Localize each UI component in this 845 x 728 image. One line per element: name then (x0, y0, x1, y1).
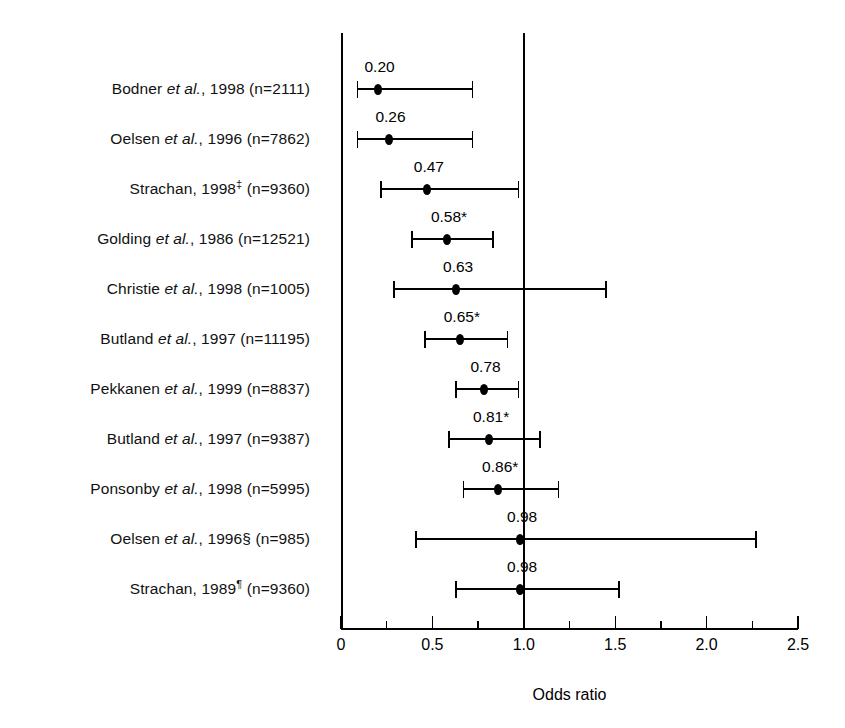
confidence-interval-cap-upper (558, 481, 560, 498)
odds-ratio-point-marker (494, 484, 502, 495)
study-label: Strachan, 1998‡ (n=9360) (130, 181, 310, 197)
x-tick-major (432, 616, 433, 629)
study-etal: et al. (164, 430, 198, 447)
odds-ratio-point-marker (443, 234, 451, 245)
odds-ratio-point-marker (516, 584, 524, 595)
y-axis-line (341, 33, 343, 628)
study-author: Butland (100, 330, 158, 347)
confidence-interval-line (463, 488, 558, 490)
odds-ratio-point-marker (456, 334, 464, 345)
x-tick-label: 0.5 (421, 637, 443, 653)
x-tick-minor (752, 621, 753, 629)
odds-ratio-point-marker (423, 184, 431, 195)
confidence-interval-line (381, 188, 518, 190)
study-author: Butland (107, 430, 165, 447)
confidence-interval-line (394, 288, 606, 290)
odds-ratio-value-label: 0.20 (364, 59, 394, 75)
confidence-interval-cap-lower (357, 131, 359, 148)
study-year-n: , 1998 (n=5995) (199, 480, 310, 497)
study-n: (n=9360) (242, 580, 310, 597)
study-author: Golding (97, 230, 156, 247)
study-etal: et al. (164, 130, 198, 147)
confidence-interval-cap-lower (415, 531, 417, 548)
x-tick-major (523, 616, 524, 629)
confidence-interval-cap-lower (424, 331, 426, 348)
study-year-n: , 1986 (n=12521) (190, 230, 310, 247)
plot-area: 00.51.01.52.02.5 0.200.260.470.58*0.630.… (341, 33, 798, 628)
x-tick-label: 0 (337, 637, 346, 653)
study-author-year: Strachan, 1989 (130, 580, 237, 597)
odds-ratio-point-marker (485, 434, 493, 445)
x-tick-label: 2.5 (787, 637, 809, 653)
confidence-interval-cap-upper (472, 131, 474, 148)
study-author-year: Strachan, 1998 (130, 180, 237, 197)
confidence-interval-line (449, 438, 540, 440)
odds-ratio-value-label: 0.98 (507, 509, 537, 525)
study-label: Oelsen et al., 1996 (n=7862) (110, 131, 310, 147)
odds-ratio-value-label: 0.47 (414, 159, 444, 175)
x-tick-label: 1.5 (604, 637, 626, 653)
confidence-interval-cap-lower (463, 481, 465, 498)
confidence-interval-cap-upper (539, 431, 541, 448)
study-author: Bodner (112, 80, 167, 97)
odds-ratio-value-label: 0.58* (431, 209, 467, 225)
study-etal: et al. (156, 230, 190, 247)
x-tick-label: 1.0 (513, 637, 535, 653)
study-etal: et al. (158, 330, 192, 347)
odds-ratio-value-label: 0.98 (507, 559, 537, 575)
study-label: Christie et al., 1998 (n=1005) (107, 281, 310, 297)
study-label: Strachan, 1989¶ (n=9360) (130, 581, 310, 597)
odds-ratio-value-label: 0.65* (444, 309, 480, 325)
study-year-n: , 1997 (n=11195) (192, 330, 310, 347)
study-etal: et al. (164, 380, 198, 397)
confidence-interval-line (425, 338, 507, 340)
confidence-interval-cap-upper (755, 531, 757, 548)
odds-ratio-value-label: 0.86* (482, 459, 518, 475)
x-tick-minor (386, 621, 387, 629)
confidence-interval-cap-upper (492, 231, 494, 248)
confidence-interval-cap-lower (448, 431, 450, 448)
confidence-interval-cap-upper (472, 81, 474, 98)
confidence-interval-line (456, 588, 619, 590)
study-label: Butland et al., 1997 (n=9387) (107, 431, 310, 447)
study-label: Pekkanen et al., 1999 (n=8837) (90, 381, 310, 397)
odds-ratio-value-label: 0.81* (473, 409, 509, 425)
x-tick-minor (660, 621, 661, 629)
study-author: Christie (107, 280, 165, 297)
study-label: Oelsen et al., 1996§ (n=985) (110, 531, 310, 547)
odds-ratio-point-marker (374, 84, 382, 95)
study-label: Butland et al., 1997 (n=11195) (100, 331, 310, 347)
study-author: Oelsen (110, 130, 164, 147)
confidence-interval-cap-upper (518, 181, 520, 198)
odds-ratio-value-label: 0.63 (443, 259, 473, 275)
odds-ratio-point-marker (452, 284, 460, 295)
confidence-interval-cap-upper (605, 281, 607, 298)
x-tick-major (615, 616, 616, 629)
confidence-interval-line (412, 238, 492, 240)
x-tick-minor (569, 621, 570, 629)
x-tick-major (797, 616, 798, 629)
study-etal: et al. (167, 80, 201, 97)
confidence-interval-cap-lower (393, 281, 395, 298)
study-author: Pekkanen (90, 380, 164, 397)
study-author: Ponsonby (90, 480, 164, 497)
odds-ratio-value-label: 0.26 (375, 109, 405, 125)
odds-ratio-value-label: 0.78 (470, 359, 500, 375)
x-tick-minor (477, 621, 478, 629)
study-year-n: , 1996§ (n=985) (199, 530, 310, 547)
study-author: Oelsen (110, 530, 164, 547)
confidence-interval-cap-lower (455, 381, 457, 398)
odds-ratio-point-marker (480, 384, 488, 395)
study-n: (n=9360) (242, 180, 310, 197)
odds-ratio-point-marker (516, 534, 524, 545)
study-year-n: , 1997 (n=9387) (199, 430, 310, 447)
study-label: Ponsonby et al., 1998 (n=5995) (90, 481, 310, 497)
odds-ratio-point-marker (385, 134, 393, 145)
study-label: Bodner et al., 1998 (n=2111) (112, 81, 310, 97)
forest-plot-figure: Bodner et al., 1998 (n=2111)Oelsen et al… (0, 0, 845, 728)
confidence-interval-cap-lower (380, 181, 382, 198)
study-year-n: , 1998 (n=2111) (201, 80, 310, 97)
confidence-interval-cap-upper (518, 381, 520, 398)
confidence-interval-line (416, 538, 756, 540)
confidence-interval-cap-lower (455, 581, 457, 598)
